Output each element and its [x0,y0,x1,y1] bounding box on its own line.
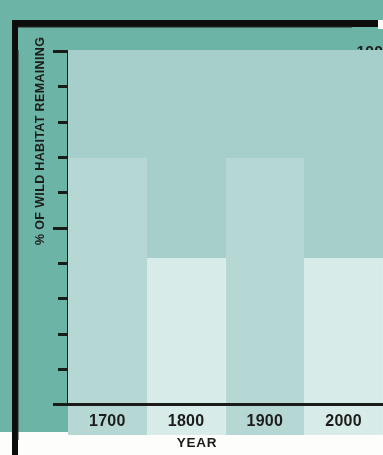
scan-edge-top [12,20,383,27]
bar-1700 [68,158,147,435]
bar-group [68,50,383,435]
y-tick-90 [58,85,68,88]
x-tick-label-2000: 2000 [304,412,383,430]
x-tick-label-1900: 1900 [226,412,305,430]
y-tick-70 [58,156,68,159]
x-axis-title: YEAR [68,435,326,450]
x-tick-label-1800: 1800 [147,412,226,430]
y-tick-50 [53,227,68,230]
x-tick-label-1700: 1700 [68,412,147,430]
bar-1900 [226,158,305,435]
bar-chart: 100 50 0 1700 1800 1900 2000 YEAR % OF W… [0,0,383,432]
y-tick-0 [53,403,68,406]
x-axis-line [67,403,383,406]
y-tick-30 [58,297,68,300]
chart-page: 100 50 0 1700 1800 1900 2000 YEAR % OF W… [0,0,383,455]
y-axis-title: % OF WILD HABITAT REMAINING [33,45,47,245]
bar-2000 [304,258,383,435]
y-tick-100 [53,50,68,53]
bar-1800 [147,258,226,435]
y-tick-10 [58,368,68,371]
y-tick-20 [58,333,68,336]
scan-edge-nick [378,20,383,29]
scan-edge-left [12,20,18,455]
y-tick-40 [58,262,68,265]
y-tick-60 [58,191,68,194]
y-tick-80 [58,121,68,124]
